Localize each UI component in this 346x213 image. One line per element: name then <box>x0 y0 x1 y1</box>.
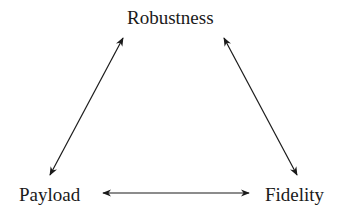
node-fidelity: Fidelity <box>265 185 324 204</box>
arrow-robustness-fidelity <box>224 38 297 175</box>
node-payload: Payload <box>19 185 80 204</box>
node-robustness: Robustness <box>127 8 214 27</box>
arrows-layer <box>0 0 346 213</box>
arrow-robustness-payload <box>50 38 123 175</box>
